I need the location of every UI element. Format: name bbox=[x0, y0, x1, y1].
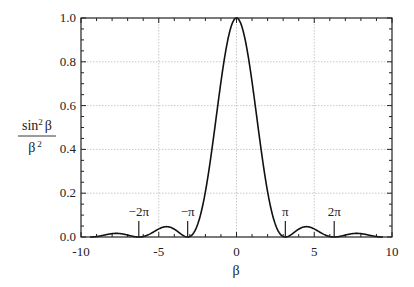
pi-label: −π bbox=[181, 204, 195, 219]
pi-label: π bbox=[282, 204, 289, 219]
x-axis-title: β bbox=[232, 263, 239, 278]
x-tick-labels: -10-50510 bbox=[72, 244, 398, 259]
y-title-num: sin bbox=[22, 118, 38, 133]
y-tick-label: 0.8 bbox=[60, 54, 76, 69]
x-tick-label: -5 bbox=[153, 244, 164, 259]
svg-text:β2: β2 bbox=[28, 139, 42, 155]
x-tick-label: 0 bbox=[233, 244, 240, 259]
x-tick-label: 10 bbox=[386, 244, 399, 259]
x-tick-label: 5 bbox=[311, 244, 318, 259]
y-tick-label: 0.4 bbox=[60, 141, 77, 156]
y-tick-label: 0.2 bbox=[60, 185, 76, 200]
y-axis-title: sin2β β2 bbox=[18, 117, 56, 155]
y-tick-label: 0.0 bbox=[60, 229, 76, 244]
pi-label: 2π bbox=[328, 204, 342, 219]
y-tick-label: 1.0 bbox=[60, 10, 76, 25]
pi-annotations: −2π−ππ2π bbox=[129, 204, 342, 237]
svg-text:sin2β: sin2β bbox=[22, 117, 52, 133]
y-tick-labels: 0.00.20.40.60.81.0 bbox=[60, 10, 77, 244]
chart: -10-50510 0.00.20.40.60.81.0 −2π−ππ2π β … bbox=[0, 0, 414, 287]
x-tick-label: -10 bbox=[72, 244, 89, 259]
pi-label: −2π bbox=[129, 204, 150, 219]
y-tick-label: 0.6 bbox=[60, 98, 77, 113]
